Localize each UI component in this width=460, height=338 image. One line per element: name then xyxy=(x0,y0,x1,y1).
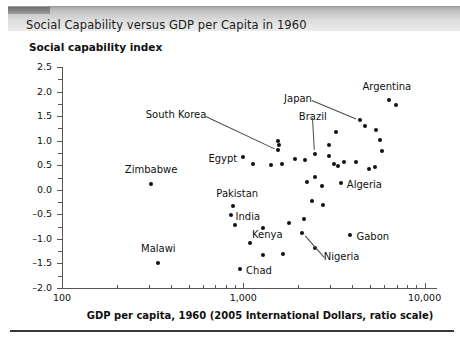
data-point xyxy=(363,124,367,128)
y-axis-title: Social capability index xyxy=(29,41,162,53)
data-point xyxy=(156,261,160,265)
x-minor-tick xyxy=(397,285,398,289)
x-minor-tick xyxy=(407,285,408,289)
y-minor-tick xyxy=(58,251,62,252)
data-point xyxy=(269,163,273,167)
data-point xyxy=(310,199,314,203)
data-point xyxy=(321,203,325,207)
y-tick-label: –1.0 xyxy=(18,233,52,244)
y-minor-tick xyxy=(58,104,62,105)
x-minor-tick xyxy=(215,285,216,289)
y-minor-tick xyxy=(58,202,62,203)
y-tick xyxy=(57,214,63,215)
y-tick-label: –1.5 xyxy=(18,257,52,268)
data-point xyxy=(231,204,235,208)
data-point xyxy=(305,180,309,184)
data-point xyxy=(378,138,382,142)
data-point xyxy=(336,164,340,168)
x-axis-line xyxy=(62,288,437,289)
point-label: Chad xyxy=(246,265,272,276)
y-tick-label: 0.0 xyxy=(18,184,52,195)
x-tick xyxy=(243,283,244,289)
y-minor-tick xyxy=(58,153,62,154)
data-point xyxy=(303,158,307,162)
point-label: Zimbabwe xyxy=(125,164,178,175)
data-point xyxy=(320,184,324,188)
label-leader-line xyxy=(304,235,324,258)
y-tick-label: 2.0 xyxy=(18,86,52,97)
x-minor-tick xyxy=(189,285,190,289)
x-tick xyxy=(425,283,426,289)
y-tick xyxy=(57,141,63,142)
data-point xyxy=(287,221,291,225)
x-minor-tick xyxy=(226,285,227,289)
scatter-plot: Social capability index –2.0–1.5–1.0–0.5… xyxy=(0,0,460,338)
data-point xyxy=(251,162,255,166)
data-point xyxy=(367,167,371,171)
y-minor-tick xyxy=(58,276,62,277)
y-minor-tick xyxy=(58,128,62,129)
data-point xyxy=(281,252,285,256)
data-point xyxy=(293,157,297,161)
data-point xyxy=(348,233,352,237)
point-label: Malawi xyxy=(141,243,176,254)
x-tick-label: 100 xyxy=(53,292,71,303)
y-tick xyxy=(57,67,63,68)
point-label: Argentina xyxy=(362,81,411,92)
x-minor-tick xyxy=(330,285,331,289)
point-label: Pakistan xyxy=(216,188,258,199)
data-point xyxy=(380,149,384,153)
data-point xyxy=(241,155,245,159)
y-axis-line xyxy=(62,67,63,289)
data-point xyxy=(149,182,153,186)
x-minor-tick xyxy=(416,285,417,289)
point-label: Gabon xyxy=(356,231,389,242)
point-label: India xyxy=(236,211,261,222)
data-point xyxy=(238,267,242,271)
data-point xyxy=(373,165,377,169)
x-minor-tick xyxy=(370,285,371,289)
data-point xyxy=(261,253,265,257)
point-label: Algeria xyxy=(347,179,382,190)
x-minor-tick xyxy=(203,285,204,289)
y-tick-label: –0.5 xyxy=(18,208,52,219)
data-point xyxy=(248,241,252,245)
data-point xyxy=(229,213,233,217)
data-point xyxy=(374,128,378,132)
y-tick-label: 2.5 xyxy=(18,61,52,72)
y-tick-label: 0.5 xyxy=(18,159,52,170)
data-point xyxy=(302,217,306,221)
y-minor-tick xyxy=(58,79,62,80)
data-point xyxy=(354,160,358,164)
label-leader-line xyxy=(206,116,275,149)
y-tick-label: 1.0 xyxy=(18,135,52,146)
y-tick xyxy=(57,116,63,117)
y-tick xyxy=(57,263,63,264)
point-label: Egypt xyxy=(208,153,237,164)
y-tick xyxy=(57,92,63,93)
x-minor-tick xyxy=(149,285,150,289)
data-point xyxy=(339,181,343,185)
point-label: Kenya xyxy=(252,229,283,240)
x-minor-tick xyxy=(298,285,299,289)
data-point xyxy=(233,223,237,227)
x-axis-title: GDP per capita, 1960 (2005 International… xyxy=(0,310,460,321)
data-point xyxy=(334,130,338,134)
data-point xyxy=(280,162,284,166)
point-label: South Korea xyxy=(146,109,207,120)
y-tick-label: –2.0 xyxy=(18,282,52,293)
data-point xyxy=(300,231,304,235)
y-tick xyxy=(57,190,63,191)
y-tick-label: 1.5 xyxy=(18,110,52,121)
label-leader-line xyxy=(312,118,315,150)
data-point xyxy=(276,148,280,152)
data-point xyxy=(313,175,317,179)
y-minor-tick xyxy=(58,227,62,228)
x-minor-tick xyxy=(117,285,118,289)
data-point xyxy=(358,118,362,122)
data-point xyxy=(313,152,317,156)
data-point xyxy=(387,98,391,102)
data-point xyxy=(327,143,331,147)
x-minor-tick xyxy=(352,285,353,289)
y-tick xyxy=(57,165,63,166)
